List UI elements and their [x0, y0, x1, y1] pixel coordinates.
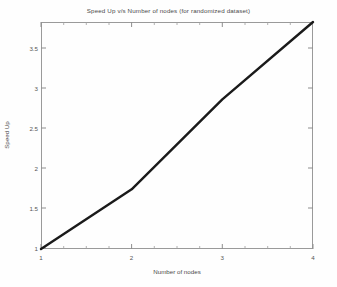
xtick-label: 1: [39, 254, 42, 261]
x-axis-label: Number of nodes: [41, 268, 313, 275]
figure-canvas: Speed Up v/s Number of nodes (for random…: [0, 0, 337, 287]
x-axis-tick-labels: 1 2 3 4: [0, 0, 337, 287]
xtick-label: 2: [130, 254, 133, 261]
xtick-label: 3: [221, 254, 224, 261]
xtick-label: 4: [311, 254, 314, 261]
y-axis-label: Speed Up: [3, 121, 10, 149]
